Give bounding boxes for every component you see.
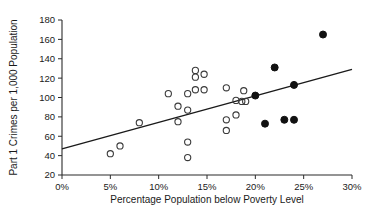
data-point-filled	[320, 31, 327, 38]
data-point-open	[117, 143, 123, 149]
chart-canvas: 204060801001201401601800%5%10%15%20%25%3…	[0, 0, 379, 218]
data-point-open	[241, 88, 247, 94]
regression-line	[62, 69, 352, 148]
data-point-filled	[252, 92, 259, 99]
y-axis-tick-label: 20	[44, 169, 55, 180]
data-point-open	[201, 71, 207, 77]
data-point-open	[192, 87, 198, 93]
data-point-open	[192, 74, 198, 80]
x-axis-tick-label: 5%	[103, 181, 117, 192]
data-point-open	[233, 112, 239, 118]
data-point-open	[175, 103, 181, 109]
y-axis-tick-label: 160	[39, 34, 55, 45]
data-point-filled	[281, 116, 288, 123]
data-point-open	[185, 91, 191, 97]
x-axis-tick-label: 15%	[197, 181, 217, 192]
data-point-open	[223, 85, 229, 91]
x-axis-tick-label: 30%	[342, 181, 362, 192]
y-axis-tick-label: 180	[39, 14, 55, 25]
y-axis-tick-label: 120	[39, 73, 55, 84]
data-point-open	[136, 120, 142, 126]
data-point-filled	[271, 64, 278, 71]
y-axis-tick-label: 80	[44, 111, 55, 122]
data-point-open	[107, 151, 113, 157]
data-point-filled	[291, 116, 298, 123]
x-axis-tick-label: 20%	[246, 181, 266, 192]
data-point-filled	[262, 120, 269, 127]
data-point-open	[201, 87, 207, 93]
scatter-chart: 204060801001201401601800%5%10%15%20%25%3…	[0, 0, 379, 218]
data-point-open	[185, 139, 191, 145]
y-axis-tick-label: 60	[44, 131, 55, 142]
data-point-open	[175, 119, 181, 125]
data-point-open	[192, 67, 198, 73]
data-point-open	[185, 107, 191, 113]
y-axis-tick-label: 140	[39, 53, 55, 64]
data-point-filled	[291, 81, 298, 88]
x-axis-tick-label: 10%	[149, 181, 169, 192]
x-axis-tick-label: 0%	[55, 181, 69, 192]
data-point-open	[165, 91, 171, 97]
data-point-open	[223, 127, 229, 133]
x-axis-tick-label: 25%	[294, 181, 314, 192]
y-axis-tick-label: 40	[44, 150, 55, 161]
data-point-open	[223, 117, 229, 123]
data-point-open	[185, 154, 191, 160]
y-axis-tick-label: 100	[39, 92, 55, 103]
y-axis-title: Part 1 Crimes per 1,000 Population	[8, 19, 19, 175]
x-axis-title: Percentage Population below Poverty Leve…	[110, 194, 303, 205]
